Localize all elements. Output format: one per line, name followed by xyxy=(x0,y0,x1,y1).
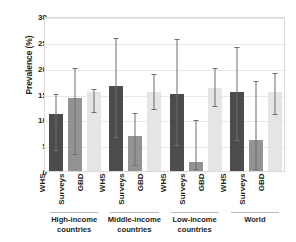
bar-surveys-2 xyxy=(128,16,142,171)
error-bar-cap-upper xyxy=(133,113,138,114)
error-bar-cap-lower xyxy=(253,169,258,170)
error-bar xyxy=(255,81,256,170)
bar-surveys-1 xyxy=(68,16,82,171)
error-bar-cap-upper xyxy=(212,68,217,69)
error-bar xyxy=(56,94,57,151)
group-rule xyxy=(171,212,219,213)
error-bar xyxy=(236,47,237,140)
bar-whs-1 xyxy=(49,16,63,171)
bar-gbd-4 xyxy=(268,16,282,171)
error-bar-cap-upper xyxy=(54,94,59,95)
x-tick-label-text: GBD xyxy=(256,174,265,214)
error-bar-cap-upper xyxy=(73,68,78,69)
error-bar xyxy=(154,74,155,109)
error-bar xyxy=(176,39,177,145)
bar-whs-3 xyxy=(170,16,184,171)
error-bar xyxy=(116,38,117,137)
error-bar-cap-lower xyxy=(133,165,138,166)
error-bar-cap-upper xyxy=(114,38,119,39)
error-bar-cap-lower xyxy=(212,106,217,107)
bar-gbd-3 xyxy=(208,16,222,171)
x-tick-label-text: WHS xyxy=(38,174,47,214)
group-label: Middle-incomecountries xyxy=(100,215,168,234)
error-bar-cap-upper xyxy=(174,39,179,40)
error-bar-cap-lower xyxy=(54,150,59,151)
group-label-line2: countries xyxy=(40,225,108,235)
group-label-line1: Middle-income xyxy=(100,215,168,225)
x-tick-label-text: Surveys xyxy=(237,174,246,214)
x-tick-label-text: Surveys xyxy=(57,174,66,214)
x-tick-label: GBD xyxy=(254,176,294,210)
bar-surveys-4 xyxy=(249,16,263,171)
prevalence-grouped-bar-chart: Prevalence (%) 051015202530 WHSSurveysGB… xyxy=(0,0,296,242)
x-tick-label-text: GBD xyxy=(76,174,85,214)
x-tick-label-text: Surveys xyxy=(117,174,126,214)
error-bar-cap-upper xyxy=(152,74,157,75)
error-bar xyxy=(214,68,215,107)
error-bar-cap-lower xyxy=(193,169,198,170)
x-tick-label-text: WHS xyxy=(158,174,167,214)
error-bar-cap-lower xyxy=(73,154,78,155)
group-label-line1: High-income xyxy=(40,215,108,225)
group-label-line1: World xyxy=(221,215,289,225)
error-bar-cap-lower xyxy=(174,145,179,146)
error-bar-cap-lower xyxy=(234,140,239,141)
error-bar-cap-upper xyxy=(234,47,239,48)
x-tick-label-text: GBD xyxy=(136,174,145,214)
bar-whs-4 xyxy=(230,16,244,171)
bar-gbd-2 xyxy=(147,16,161,171)
error-bar-cap-lower xyxy=(272,114,277,115)
error-bar-cap-lower xyxy=(92,112,97,113)
bar-whs-2 xyxy=(109,16,123,171)
error-bar-cap-upper xyxy=(272,73,277,74)
group-label-line1: Low-income xyxy=(161,215,229,225)
group-label: World xyxy=(221,215,289,225)
group-label-line2: countries xyxy=(100,225,168,235)
error-bar xyxy=(75,68,76,155)
group-label: High-incomecountries xyxy=(40,215,108,234)
plot-area xyxy=(44,17,285,172)
error-bar-cap-upper xyxy=(253,81,258,82)
error-bar xyxy=(274,73,275,114)
error-bar-cap-lower xyxy=(152,109,157,110)
error-bar xyxy=(135,113,136,165)
x-tick-label-text: WHS xyxy=(218,174,227,214)
error-bar-cap-upper xyxy=(92,89,97,90)
x-tick-label-text: Surveys xyxy=(177,174,186,214)
bar-surveys-3 xyxy=(189,16,203,171)
x-tick-label-text: GBD xyxy=(196,174,205,214)
error-bar xyxy=(195,120,196,169)
group-rule xyxy=(50,212,98,213)
group-label-line2: countries xyxy=(161,225,229,235)
error-bar-cap-upper xyxy=(193,120,198,121)
group-rule xyxy=(231,212,279,213)
x-tick-label-text: WHS xyxy=(98,174,107,214)
group-label: Low-incomecountries xyxy=(161,215,229,234)
bar-gbd-1 xyxy=(87,16,101,171)
error-bar xyxy=(94,89,95,111)
group-rule xyxy=(110,212,158,213)
error-bar-cap-lower xyxy=(114,137,119,138)
